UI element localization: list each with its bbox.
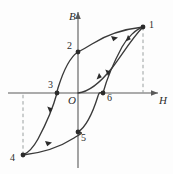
direction-arrow-descending-upper bbox=[111, 36, 118, 41]
point-label-3: 3 bbox=[48, 80, 53, 90]
data-point-2 bbox=[76, 50, 81, 55]
b-axis-arrowhead bbox=[75, 12, 81, 19]
point-label-6: 6 bbox=[107, 93, 112, 103]
h-axis-label: H bbox=[159, 95, 167, 106]
data-point-6 bbox=[101, 91, 106, 96]
data-point-5 bbox=[76, 130, 81, 135]
point-label-1: 1 bbox=[149, 20, 154, 30]
hysteresis-loop-figure: B H O 1 2 3 4 5 6 bbox=[0, 0, 173, 174]
point-label-5: 5 bbox=[81, 133, 86, 143]
hysteresis-loop-svg bbox=[0, 0, 173, 174]
origin-label: O bbox=[68, 95, 76, 106]
point-label-4: 4 bbox=[10, 153, 15, 163]
point-label-2: 2 bbox=[67, 41, 72, 51]
direction-arrow-ascending-lower bbox=[45, 141, 52, 146]
data-point-4 bbox=[21, 153, 26, 158]
data-point-3 bbox=[55, 91, 60, 96]
curve-initial-magnetization bbox=[78, 27, 143, 93]
data-point-1 bbox=[141, 25, 146, 30]
h-axis-arrowhead bbox=[151, 90, 158, 96]
direction-arrow-initial-mid bbox=[97, 73, 102, 80]
b-axis-label: B bbox=[69, 11, 76, 22]
